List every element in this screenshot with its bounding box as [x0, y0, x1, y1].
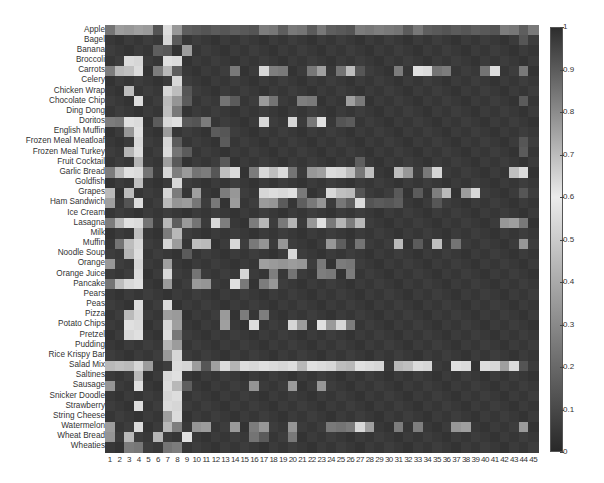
- heatmap-cell: [528, 269, 538, 280]
- y-tick-label: Chocolate Chip: [49, 96, 105, 106]
- x-tick-label: 20: [288, 455, 298, 464]
- heatmap-cell: [528, 76, 538, 87]
- x-tick-label: 35: [432, 455, 442, 464]
- heatmap-cell: [528, 35, 538, 46]
- y-tick-label: English Muffin: [54, 126, 105, 136]
- colorbar-tick-label: 0.2: [563, 362, 574, 371]
- y-tick-label: Lasagna: [74, 218, 105, 228]
- colorbar-tick-mark: [560, 452, 564, 453]
- y-tick-label: Apple: [84, 25, 105, 35]
- x-tick-label: 26: [345, 455, 355, 464]
- heatmap-plot-area: [105, 25, 538, 452]
- x-tick-label: 8: [172, 455, 182, 464]
- colorbar-tick-label: 0.1: [563, 405, 574, 414]
- heatmap-cell: [528, 432, 538, 443]
- y-tick-label: Garlic Bread: [59, 167, 105, 177]
- y-tick-label: Sausage: [73, 380, 105, 390]
- y-tick-label: Bagel: [84, 35, 105, 45]
- x-tick-label: 21: [297, 455, 307, 464]
- x-tick-label: 43: [509, 455, 519, 464]
- y-tick-label: Broccoli: [76, 55, 105, 65]
- colorbar-tick-mark: [560, 155, 564, 156]
- x-tick-label: 11: [201, 455, 211, 464]
- x-tick-label: 27: [355, 455, 365, 464]
- heatmap-cell: [528, 391, 538, 402]
- colorbar-tick-mark: [560, 325, 564, 326]
- heatmap-cell: [528, 310, 538, 321]
- colorbar-tick-mark: [560, 112, 564, 113]
- y-tick-label: Banana: [77, 45, 105, 55]
- y-tick-label: Grapes: [78, 187, 105, 197]
- heatmap-cell: [528, 289, 538, 300]
- heatmap-cell: [528, 300, 538, 311]
- y-tick-label: Snicker Doodle: [49, 391, 105, 401]
- colorbar-tick-mark: [560, 240, 564, 241]
- y-tick-label: Saltines: [76, 370, 105, 380]
- y-tick-label: Ding Dong: [66, 106, 105, 116]
- heatmap-cell: [528, 157, 538, 168]
- y-tick-label: Strawberry: [65, 401, 105, 411]
- heatmap-cell: [528, 361, 538, 372]
- y-tick-label: Pizza: [85, 309, 105, 319]
- y-tick-label: Peas: [86, 299, 105, 309]
- colorbar-tick-mark: [560, 70, 564, 71]
- y-tick-label: Pears: [84, 289, 105, 299]
- heatmap-cell: [528, 106, 538, 117]
- y-tick-label: Muffin: [83, 238, 105, 248]
- x-tick-label: 29: [374, 455, 384, 464]
- x-tick-label: 6: [153, 455, 163, 464]
- heatmap-cell: [528, 381, 538, 392]
- heatmap-cell: [528, 117, 538, 128]
- x-tick-label: 32: [403, 455, 413, 464]
- x-tick-label: 39: [470, 455, 480, 464]
- colorbar-tick-mark: [560, 27, 564, 28]
- heatmap-cell: [528, 198, 538, 209]
- x-tick-label: 16: [249, 455, 259, 464]
- x-tick-label: 44: [519, 455, 529, 464]
- y-tick-label: Pancake: [73, 279, 105, 289]
- y-tick-label: Goldfish: [75, 177, 105, 187]
- y-tick-label: Watermelon: [61, 421, 105, 431]
- x-tick-label: 45: [528, 455, 538, 464]
- x-tick-label: 42: [499, 455, 509, 464]
- heatmap-cell: [528, 371, 538, 382]
- y-tick-label: Pudding: [75, 340, 105, 350]
- x-tick-label: 18: [268, 455, 278, 464]
- colorbar-tick-mark: [560, 282, 564, 283]
- heatmap-cell: [528, 239, 538, 250]
- x-tick-label: 13: [220, 455, 230, 464]
- heatmap-cell: [528, 320, 538, 331]
- heatmap-cell: [528, 330, 538, 341]
- heatmap-cell: [528, 56, 538, 67]
- colorbar-tick-label: 0.8: [563, 107, 574, 116]
- y-tick-label: Ice Cream: [67, 208, 105, 218]
- heatmap-cell: [528, 249, 538, 260]
- y-tick-label: Chicken Wrap: [54, 86, 105, 96]
- heatmap-cell: [528, 259, 538, 270]
- x-tick-label: 7: [163, 455, 173, 464]
- x-tick-label: 38: [461, 455, 471, 464]
- heatmap-cell: [528, 178, 538, 189]
- x-tick-label: 9: [182, 455, 192, 464]
- y-tick-label: Wheat Bread: [57, 431, 105, 441]
- y-tick-label: Orange Juice: [56, 269, 105, 279]
- x-tick-label: 34: [422, 455, 432, 464]
- x-tick-label: 10: [191, 455, 201, 464]
- x-tick-label: 3: [124, 455, 134, 464]
- colorbar-tick-label: 0.9: [563, 65, 574, 74]
- x-tick-label: 36: [442, 455, 452, 464]
- heatmap-cell: [528, 422, 538, 433]
- x-tick-label: 25: [336, 455, 346, 464]
- colorbar-tick-mark: [560, 197, 564, 198]
- colorbar-tick-label: 0.5: [563, 235, 574, 244]
- colorbar-tick-label: 0.7: [563, 150, 574, 159]
- heatmap-cell: [528, 137, 538, 148]
- heatmap-cell: [528, 218, 538, 229]
- x-tick-label: 28: [365, 455, 375, 464]
- y-tick-label: Potato Chips: [58, 319, 105, 329]
- heatmap-cell: [528, 350, 538, 361]
- x-tick-label: 17: [259, 455, 269, 464]
- heatmap-figure: AppleBagelBananaBroccoliCarrotsCeleryChi…: [0, 0, 604, 483]
- heatmap-cell: [528, 411, 538, 422]
- x-tick-label: 19: [278, 455, 288, 464]
